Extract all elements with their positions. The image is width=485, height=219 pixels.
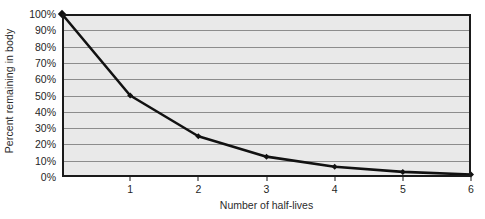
y-axis-tick-label: 100% bbox=[29, 8, 56, 20]
y-axis-title-label: Percent remaining in body bbox=[3, 29, 15, 154]
half-life-decay-chart: Percent remaining in body 100%90%80%70%6… bbox=[0, 0, 485, 219]
x-axis-tick-label: 3 bbox=[264, 183, 270, 195]
data-point-marker bbox=[332, 164, 338, 170]
y-axis-tick-label: 40% bbox=[35, 106, 56, 118]
y-axis-tick-label: 10% bbox=[35, 155, 56, 167]
plot-area bbox=[62, 14, 471, 177]
x-axis-tick-label: 5 bbox=[400, 183, 406, 195]
x-axis-tick-mark bbox=[402, 177, 403, 181]
y-axis-tick-label: 0% bbox=[41, 171, 56, 183]
y-axis-title: Percent remaining in body bbox=[0, 0, 18, 182]
x-axis-tick-label: 2 bbox=[195, 183, 201, 195]
data-point-markers bbox=[58, 10, 474, 178]
x-axis-title: Number of half-lives bbox=[62, 199, 471, 211]
x-axis-tick-mark bbox=[198, 177, 199, 181]
x-axis-tick-label: 4 bbox=[332, 183, 338, 195]
y-axis-tick-label: 20% bbox=[35, 138, 56, 150]
plot-border-right bbox=[469, 14, 471, 177]
x-axis-tick-label: 1 bbox=[127, 183, 133, 195]
y-axis-tick-label: 50% bbox=[35, 90, 56, 102]
y-axis-tick-label: 30% bbox=[35, 122, 56, 134]
y-axis-tick-label: 90% bbox=[35, 24, 56, 36]
y-axis-tick-label: 60% bbox=[35, 73, 56, 85]
y-axis-tick-labels: 100%90%80%70%60%50%40%30%20%10%0% bbox=[18, 14, 60, 177]
x-axis-tick-mark bbox=[471, 177, 472, 181]
x-axis-tick-mark bbox=[130, 177, 131, 181]
x-axis-tick-mark bbox=[334, 177, 335, 181]
data-series-line bbox=[62, 14, 471, 177]
plot-border-left bbox=[62, 14, 64, 177]
data-point-marker bbox=[400, 169, 406, 175]
y-axis-tick-label: 80% bbox=[35, 41, 56, 53]
plot-border-top bbox=[62, 14, 471, 16]
data-point-marker bbox=[264, 154, 270, 160]
y-axis-tick-label: 70% bbox=[35, 57, 56, 69]
x-axis-tick-mark bbox=[266, 177, 267, 181]
decay-curve-path bbox=[62, 14, 471, 174]
x-axis-tick-label: 6 bbox=[468, 183, 474, 195]
